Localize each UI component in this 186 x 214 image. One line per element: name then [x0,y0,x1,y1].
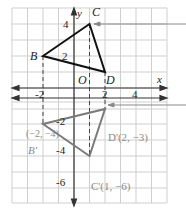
point-c-label: C [92,5,101,19]
y-tick-4: 4 [63,18,69,30]
coordinate-diagram: y C 4 B 2 O D x -2 2 4 -2 (−2, −4) B' -4… [0,0,186,214]
point-dprime-label: D'(2, −3) [108,131,148,144]
y-axis [72,8,77,206]
x-tick-2: 2 [102,88,108,100]
point-bprime-label: B' [28,144,38,156]
point-b-label: B [30,49,38,63]
y-tick-neg6: -6 [56,176,66,188]
x-tick-4: 4 [132,88,138,100]
point-bprime-coords: (−2, −4) [26,128,59,140]
x-axis-label: x [156,73,162,85]
y-tick-2: 2 [62,50,68,62]
origin-label: O [78,73,87,87]
x-tick-neg2: -2 [35,88,44,100]
point-d-label: D [105,73,115,87]
point-cprime-label: C'(1, −6) [91,180,131,193]
y-tick-neg4: -4 [56,144,66,156]
y-tick-neg2: -2 [56,115,65,127]
y-axis-label: y [76,7,82,19]
pointer-lines [94,22,186,107]
